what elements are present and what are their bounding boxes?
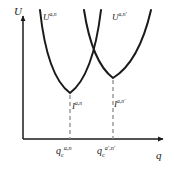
well-label-right-superscript: a,n′ bbox=[117, 98, 125, 104]
y-axis-label: U bbox=[14, 6, 22, 17]
tick-label-left: qca,n bbox=[56, 146, 71, 156]
tick-label-left-subscript: c bbox=[61, 151, 64, 158]
potential-energy-diagram: U q Ua,n Ua,n′ Ia,n Ia,n′ qca,n qca′,n′ bbox=[0, 0, 174, 171]
tick-label-right-superscript: a′,n′ bbox=[105, 144, 115, 151]
right-parabola-label-superscript: a,n′ bbox=[119, 11, 127, 17]
well-label-right: Ia,n′ bbox=[114, 100, 125, 109]
left-parabola-curve bbox=[40, 10, 101, 93]
well-label-left-superscript: a,n bbox=[75, 100, 82, 106]
well-label-left: Ia,n bbox=[72, 102, 82, 111]
tick-label-left-superscript: a,n bbox=[64, 144, 72, 151]
tick-label-right-subscript: c bbox=[102, 151, 105, 158]
left-parabola-label-superscript: a,n bbox=[50, 11, 57, 17]
right-parabola-label: Ua,n′ bbox=[112, 13, 127, 22]
left-parabola-label: Ua,n bbox=[43, 13, 56, 22]
diagram-canvas bbox=[0, 0, 174, 171]
x-axis-label: q bbox=[156, 150, 162, 161]
tick-label-right: qca′,n′ bbox=[97, 146, 115, 156]
